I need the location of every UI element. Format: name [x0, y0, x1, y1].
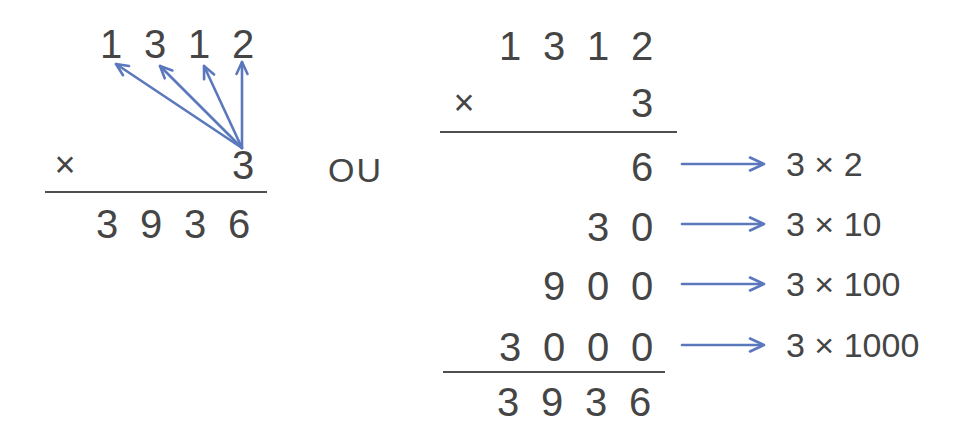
fan-arrow-icon	[204, 66, 242, 148]
product-digit: 9	[530, 382, 574, 422]
partial-digit: 0	[576, 327, 620, 367]
right-arrow-icon	[682, 278, 764, 291]
product-digit: 6	[618, 382, 662, 422]
partial-digit	[488, 147, 532, 187]
right-multiplicand-row: 1 3 1 2	[488, 26, 664, 66]
product-digit: 3	[173, 204, 217, 244]
fan-arrow-icon	[160, 66, 242, 148]
partial-digit	[488, 266, 532, 306]
multiplicand-digit: 2	[620, 26, 664, 66]
partial-product-label: 3 × 2	[786, 144, 863, 184]
product-digit: 3	[486, 382, 530, 422]
partial-digit	[532, 207, 576, 247]
right-product-row: 3 9 3 6	[486, 382, 662, 422]
fan-arrow-icon	[237, 62, 248, 148]
partial-product-label: 3 × 100	[786, 264, 900, 304]
product-digit: 6	[217, 204, 261, 244]
multiplicand-digit: 1	[488, 26, 532, 66]
product-digit: 9	[129, 204, 173, 244]
product-digit: 3	[85, 204, 129, 244]
multiplicand-digit: 3	[532, 26, 576, 66]
partial-digit	[488, 207, 532, 247]
partial-digit: 0	[620, 207, 664, 247]
partial-digit: 3	[488, 327, 532, 367]
left-multiplier-digit: 3	[221, 145, 265, 185]
partial-product-label: 3 × 1000	[786, 325, 919, 365]
multiplicand-digit: 3	[133, 24, 177, 64]
partial-product-row: 6	[488, 147, 664, 187]
left-equals-rule	[45, 191, 267, 193]
product-digit: 3	[574, 382, 618, 422]
partial-digit: 0	[532, 327, 576, 367]
multiplicand-digit: 1	[576, 26, 620, 66]
partial-digit: 0	[620, 327, 664, 367]
fan-arrow-icon	[116, 64, 242, 148]
partial-product-row: 9 0 0	[488, 266, 664, 306]
partial-digit: 3	[576, 207, 620, 247]
right-equals-rule	[440, 131, 677, 133]
partial-product-row: 3 0	[488, 207, 664, 247]
left-multiplicand-row: 1 3 1 2	[89, 24, 265, 64]
connector-ou-label: OU	[328, 152, 383, 188]
partial-digit	[532, 147, 576, 187]
multiplicand-digit: 2	[221, 24, 265, 64]
right-times-sign: ×	[442, 83, 486, 123]
partial-product-row: 3 0 0 0	[488, 327, 664, 367]
partial-digit: 6	[620, 147, 664, 187]
right-multiplier-digit: 3	[620, 83, 664, 123]
multiplication-worksheet: 1 3 1 2 × 3 3 9 3 6 OU 1 3 1 2 × 3 6 3 ×…	[0, 0, 961, 441]
partial-digit: 0	[576, 266, 620, 306]
right-arrow-icon	[682, 218, 764, 231]
multiplicand-digit: 1	[177, 24, 221, 64]
partial-product-label: 3 × 10	[786, 204, 881, 244]
multiplicand-digit: 1	[89, 24, 133, 64]
right-arrow-icon	[682, 339, 764, 352]
left-product-row: 3 9 3 6	[85, 204, 261, 244]
partial-digit: 9	[532, 266, 576, 306]
left-times-sign: ×	[43, 145, 87, 185]
partial-digit	[576, 147, 620, 187]
right-sum-rule	[443, 371, 665, 373]
partial-digit: 0	[620, 266, 664, 306]
right-arrow-icon	[682, 158, 764, 171]
